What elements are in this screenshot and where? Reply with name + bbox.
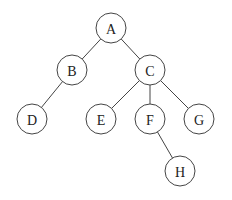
tree-diagram: ABCDEFGH xyxy=(0,0,232,200)
node-d: D xyxy=(17,104,47,134)
node-label: D xyxy=(27,113,37,128)
edge-f-h xyxy=(157,132,172,158)
node-a: A xyxy=(96,13,126,43)
node-label: F xyxy=(146,113,154,128)
node-b: B xyxy=(57,55,87,85)
node-label: B xyxy=(67,64,76,79)
edge-b-d xyxy=(41,82,62,108)
edge-c-e xyxy=(112,81,140,109)
node-e: E xyxy=(86,104,116,134)
edges-layer xyxy=(41,39,188,158)
node-f: F xyxy=(135,104,165,134)
node-label: A xyxy=(106,22,117,37)
edge-c-g xyxy=(161,81,189,109)
edge-a-b xyxy=(82,39,101,59)
nodes-layer: ABCDEFGH xyxy=(17,13,214,186)
node-label: C xyxy=(145,64,154,79)
node-label: G xyxy=(194,113,204,128)
node-label: H xyxy=(175,165,185,180)
node-g: G xyxy=(184,104,214,134)
node-label: E xyxy=(97,113,106,128)
node-h: H xyxy=(165,156,195,186)
node-c: C xyxy=(135,55,165,85)
edge-a-c xyxy=(121,39,140,59)
